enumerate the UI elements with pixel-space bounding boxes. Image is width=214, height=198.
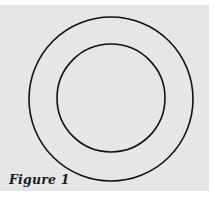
inner-circle (57, 44, 165, 152)
concentric-circles-diagram (0, 0, 214, 198)
outer-circle (29, 17, 193, 181)
figure-caption: Figure 1 (9, 172, 70, 187)
